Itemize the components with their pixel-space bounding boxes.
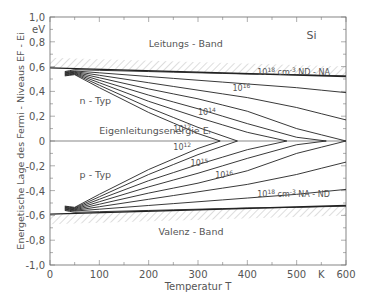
y-tick-label: -1,0	[25, 260, 45, 271]
y-tick-label: -0,8	[25, 235, 45, 246]
x-tick-label: 0	[47, 269, 53, 280]
fermi-level-chart: 1,00,80,60,40,20-0,2-0,4-0,6-0,8-1,0eV01…	[0, 0, 367, 304]
annotation-text: n - Typ	[80, 95, 111, 106]
annotation-text: Eigenleitungsenergie Eᵢ	[99, 125, 210, 136]
x-tick-label: 100	[90, 269, 109, 280]
annotation-text: Si	[307, 29, 317, 42]
y-tick-label: 0,6	[29, 62, 45, 73]
y-tick-label: -0,4	[25, 186, 45, 197]
annotation-text: Leitungs - Band	[149, 38, 223, 49]
y-axis-label: Energetische Lage des Fermi - Niveaus EF…	[15, 32, 26, 249]
y-tick-label: -0,6	[25, 210, 45, 221]
curve-label: 1018 cm-3 NA - ND	[257, 188, 330, 199]
x-tick-label: 500	[287, 269, 306, 280]
x-tick-label: 300	[188, 269, 207, 280]
curve-label: 1012	[173, 141, 191, 152]
valence-band-hatch	[50, 205, 346, 224]
curve-label: 1016	[215, 169, 233, 180]
annotation-text: Valenz - Band	[159, 226, 224, 237]
chart-texts: 1,00,80,60,40,20-0,2-0,4-0,6-0,8-1,0eV01…	[15, 12, 356, 292]
y-tick-label: -0,2	[25, 161, 45, 172]
x-axis-label: Temperatur T	[164, 281, 233, 292]
y-unit-label: eV	[32, 24, 45, 35]
x-tick-label: K	[318, 269, 325, 280]
y-tick-label: 0	[39, 136, 45, 147]
y-tick-label: 0,2	[29, 111, 45, 122]
y-tick-label: 0,8	[29, 37, 45, 48]
x-tick-label: 200	[139, 269, 158, 280]
curve-label: 1014	[198, 106, 216, 117]
curve-label: 1015	[191, 157, 209, 168]
x-tick-label: 400	[238, 269, 257, 280]
annotation-text: p - Typ	[80, 169, 111, 180]
x-tick-label: 600	[336, 269, 355, 280]
y-tick-label: 1,0	[29, 12, 45, 23]
y-tick-label: 0,4	[29, 86, 45, 97]
curve-label: 1016	[233, 82, 251, 93]
